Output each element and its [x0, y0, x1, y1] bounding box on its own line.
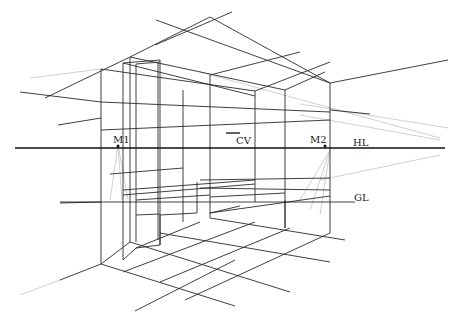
- perspective-drawing: [0, 0, 458, 317]
- cv-label: CV: [236, 136, 251, 146]
- hl-label: HL: [353, 138, 368, 148]
- measuring-points: [117, 145, 327, 148]
- structure-lines: [20, 12, 448, 311]
- m2-label: M2: [310, 135, 327, 145]
- gl-label: GL: [354, 193, 369, 203]
- m1-label: M1: [113, 135, 130, 145]
